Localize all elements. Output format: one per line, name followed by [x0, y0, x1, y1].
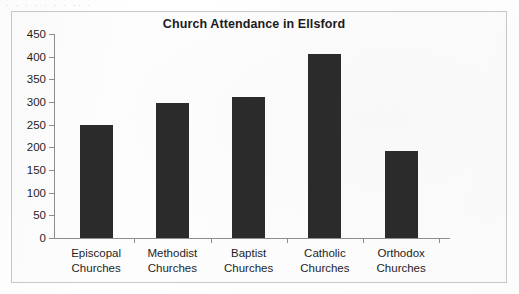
x-axis-label-line: Churches	[353, 261, 449, 276]
x-axis-tick	[134, 238, 135, 243]
y-axis-tick	[49, 193, 54, 194]
y-axis-tick	[49, 215, 54, 216]
bar	[156, 103, 189, 238]
y-axis-tick	[49, 125, 54, 126]
x-axis-label-line: Orthodox	[353, 246, 449, 261]
y-axis-tick-label: 0	[40, 232, 46, 244]
y-axis-tick-label: 250	[27, 119, 46, 131]
y-axis-tick-label: 100	[27, 187, 46, 199]
y-axis-tick	[49, 102, 54, 103]
bar	[308, 54, 341, 238]
chart-title: Church Attendance in Ellsford	[54, 17, 454, 31]
y-axis-tick-label: 200	[27, 141, 46, 153]
x-axis-tick	[439, 238, 440, 243]
y-axis-tick	[49, 79, 54, 80]
x-axis-tick	[211, 238, 212, 243]
y-axis-tick	[49, 147, 54, 148]
x-axis-tick	[363, 238, 364, 243]
y-axis-tick	[49, 238, 54, 239]
y-axis-line	[54, 34, 55, 239]
chart-frame: Church Attendance in Ellsford 0501001502…	[11, 11, 507, 283]
y-axis-tick-label: 50	[33, 209, 46, 221]
plot-area: 050100150200250300350400450 EpiscopalChu…	[54, 34, 449, 238]
x-axis-category-label: OrthodoxChurches	[353, 246, 449, 275]
x-axis-line	[54, 238, 450, 239]
x-axis-tick	[287, 238, 288, 243]
bar	[385, 151, 418, 238]
bar	[232, 97, 265, 238]
y-axis-tick	[49, 57, 54, 58]
bar	[80, 125, 113, 238]
y-axis-tick-label: 450	[27, 28, 46, 40]
y-axis-tick	[49, 34, 54, 35]
y-axis-tick-label: 300	[27, 96, 46, 108]
scan-top-artifact: · · · · · · · ·· ·	[0, 0, 519, 11]
y-axis-tick-label: 400	[27, 51, 46, 63]
y-axis-tick	[49, 170, 54, 171]
y-axis-tick-label: 150	[27, 164, 46, 176]
y-axis-tick-label: 350	[27, 73, 46, 85]
